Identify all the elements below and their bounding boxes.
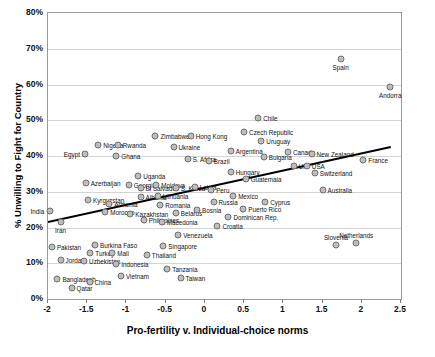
point-label: Peru: [216, 186, 229, 193]
data-point: [57, 257, 64, 264]
data-point: [285, 148, 292, 155]
point-label: Romania: [165, 202, 190, 209]
point-label: Venezuela: [183, 231, 212, 238]
data-point: [57, 219, 64, 226]
data-point: [140, 216, 147, 223]
point-label: Mexico: [238, 193, 258, 200]
data-point: [227, 169, 234, 176]
point-label: Mali: [117, 250, 129, 257]
point-label: Egypt: [64, 151, 80, 158]
point-label: Rwanda: [123, 142, 146, 149]
data-point: [82, 179, 89, 186]
point-label: Taiwan: [186, 275, 206, 282]
x-tick-mark: [400, 300, 401, 303]
data-point: [205, 158, 212, 165]
data-point: [360, 156, 367, 163]
point-label: Andorra: [379, 92, 401, 99]
point-label: Bosnia: [202, 207, 221, 214]
data-point: [95, 141, 102, 148]
data-point: [210, 199, 217, 206]
point-label: Uruguay: [266, 137, 290, 144]
data-point: [187, 133, 194, 140]
point-label: Ghana: [121, 153, 140, 160]
plot-area: IndiaIranPakistanJordanBangladeshQatarEg…: [47, 12, 402, 300]
data-point: [172, 210, 179, 217]
y-tick-label: 0%: [0, 293, 43, 303]
x-tick-label: -0.5: [150, 304, 180, 314]
data-point: [113, 153, 120, 160]
y-tick-label: 20%: [0, 222, 43, 232]
data-point: [262, 198, 269, 205]
data-point: [152, 133, 159, 140]
point-label: Indonesia: [121, 260, 148, 267]
data-point: [227, 147, 234, 154]
point-label: Thailand: [152, 252, 176, 259]
data-point: [255, 115, 262, 122]
x-tick-mark: [125, 300, 126, 303]
data-point: [191, 184, 198, 191]
data-point: [353, 239, 360, 246]
data-point: [143, 252, 150, 259]
point-label: Singapore: [168, 243, 197, 250]
data-point: [332, 241, 339, 248]
point-label: Cyprus: [270, 198, 290, 205]
point-label: France: [368, 156, 388, 163]
point-label: Lithuania: [163, 193, 189, 200]
data-point: [153, 182, 160, 189]
x-tick-mark: [243, 300, 244, 303]
data-point: [311, 170, 318, 177]
data-point: [319, 186, 326, 193]
y-tick-label: 60%: [0, 79, 43, 89]
data-point: [230, 193, 237, 200]
point-label: Burkina Faso: [100, 242, 137, 249]
point-label: Croatia: [222, 222, 242, 229]
x-tick-mark: [282, 300, 283, 303]
x-tick-mark: [47, 300, 48, 303]
point-label: Netherlands: [339, 231, 373, 238]
point-label: Brazil: [214, 158, 230, 165]
x-tick-label: 1.5: [307, 304, 337, 314]
data-point: [214, 222, 221, 229]
point-label: Australia: [328, 186, 353, 193]
x-tick-label: -1.5: [71, 304, 101, 314]
x-tick-mark: [204, 300, 205, 303]
data-point: [127, 210, 134, 217]
data-point: [387, 84, 394, 91]
point-label: Pakistan: [57, 244, 81, 251]
point-label: Vietnam: [126, 272, 149, 279]
point-label: Argentina: [236, 147, 263, 154]
data-point: [102, 209, 109, 216]
point-label: Chile: [263, 115, 277, 122]
x-tick-label: 2.5: [385, 304, 415, 314]
data-point: [172, 185, 179, 192]
point-label: Armenia: [114, 201, 137, 208]
data-point: [137, 185, 144, 192]
y-tick-label: 10%: [0, 257, 43, 267]
data-point: [85, 196, 92, 203]
data-point: [258, 137, 265, 144]
data-point: [164, 266, 171, 273]
point-label: Puerto Rico: [248, 205, 281, 212]
data-point: [125, 181, 132, 188]
point-label: Zimbabwe: [160, 133, 189, 140]
x-tick-label: 0: [189, 304, 219, 314]
data-point: [86, 278, 93, 285]
data-point: [92, 242, 99, 249]
data-point: [184, 155, 191, 162]
data-point: [160, 243, 167, 250]
x-tick-label: 0.5: [228, 304, 258, 314]
data-point: [158, 219, 165, 226]
point-label: Azerbaijan: [91, 179, 121, 186]
x-tick-label: -2: [32, 304, 62, 314]
point-label: USA: [312, 163, 325, 170]
data-point: [81, 151, 88, 158]
data-point: [240, 205, 247, 212]
data-point: [87, 250, 94, 257]
point-label: Macedonia: [167, 219, 198, 226]
data-point: [194, 207, 201, 214]
data-point: [109, 250, 116, 257]
x-tick-mark: [165, 300, 166, 303]
data-point: [46, 208, 53, 215]
point-label: Guatemala: [251, 176, 282, 183]
y-tick-label: 40%: [0, 150, 43, 160]
